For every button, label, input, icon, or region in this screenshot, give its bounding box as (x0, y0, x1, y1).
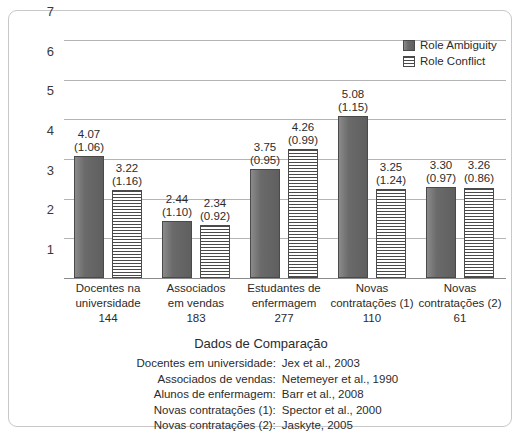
category-sample-size: 61 (405, 311, 515, 326)
chart-legend: Role Ambiguity Role Conflict (403, 37, 497, 69)
category-line-1: Associados (167, 282, 226, 294)
bar-group: 3.75 (0.95) 4.26 (0.99) (240, 40, 328, 278)
bar-ambiguity[interactable] (162, 221, 192, 278)
y-axis-tick: 6 (47, 43, 54, 58)
bar-sd: (0.95) (237, 154, 293, 167)
bar-conflict[interactable] (200, 225, 230, 278)
reference-row: Novas contratações (2): Jaskyte, 2005 (124, 418, 398, 434)
bar-value-label: 3.25 (1.24) (363, 161, 419, 187)
bar-conflict[interactable] (288, 149, 318, 278)
bar-conflict[interactable] (376, 189, 406, 278)
bar-group: 5.08 (1.15) 3.25 (1.24) (328, 40, 416, 278)
category-line-1: Docentes na (76, 282, 141, 294)
bar-group: 4.07 (1.06) 3.22 (1.16) (64, 40, 152, 278)
y-axis-tick: 4 (47, 123, 54, 138)
bar-group: 3.30 (0.97) 3.26 (0.86) (416, 40, 504, 278)
bar-value: 3.26 (451, 159, 507, 172)
y-axis: 7 6 5 4 3 2 1 (9, 11, 64, 278)
y-axis-tick: 3 (47, 162, 54, 177)
reference-label: Associados de vendas: (124, 372, 282, 388)
category-line-2: universidade (75, 297, 140, 309)
bar-value: 4.07 (61, 128, 117, 141)
y-axis-tick: 2 (47, 202, 54, 217)
reference-citation: Jaskyte, 2005 (282, 418, 353, 434)
category-line-2: enfermagem (252, 297, 317, 309)
legend-swatch-icon (403, 56, 415, 67)
legend-item-role-conflict[interactable]: Role Conflict (403, 53, 497, 69)
category-line-1: Novas (444, 282, 477, 294)
bar-sd: (0.86) (451, 172, 507, 185)
category-line-1: Novas (356, 282, 389, 294)
axis-baseline (64, 278, 506, 279)
bar-sd: (1.24) (363, 174, 419, 187)
bar-sd: (0.99) (275, 134, 331, 147)
bar-conflict[interactable] (464, 188, 494, 278)
y-axis-tick: 7 (47, 4, 54, 19)
bar-sd: (0.92) (187, 210, 243, 223)
reference-label: Alunos de enfermagem: (124, 387, 282, 403)
bar-value: 2.34 (187, 197, 243, 210)
reference-label: Novas contratações (1): (124, 403, 282, 419)
category-line-2: contratações (2) (418, 297, 501, 309)
legend-swatch-icon (403, 40, 415, 51)
bar-value-label: 4.26 (0.99) (275, 121, 331, 147)
legend-item-role-ambiguity[interactable]: Role Ambiguity (403, 37, 497, 53)
bar-conflict[interactable] (112, 190, 142, 278)
y-axis-tick: 5 (47, 83, 54, 98)
reference-list: Docentes em universidade: Jex et al., 20… (124, 356, 398, 434)
category-line-2: contratações (1) (330, 297, 413, 309)
reference-row: Novas contratações (1): Spector et al., … (124, 403, 398, 419)
reference-citation: Spector et al., 2000 (282, 403, 382, 419)
bar-series-container: 4.07 (1.06) 3.22 (1.16) 2.44 (1.10) 2.34… (64, 40, 506, 278)
bar-value-label: 4.07 (1.06) (61, 128, 117, 154)
reference-citation: Jex et al., 2003 (282, 356, 360, 372)
category-line-1: Estudantes de (247, 282, 321, 294)
x-axis-categories: Docentes na universidade 144 Associados … (64, 281, 506, 331)
reference-label: Docentes em universidade: (124, 356, 282, 372)
bar-value-label: 2.34 (0.92) (187, 197, 243, 223)
bar-value: 3.22 (99, 162, 155, 175)
footer-block: Dados de Comparação Docentes em universi… (17, 336, 505, 434)
bar-value-label: 5.08 (1.15) (325, 88, 381, 114)
bar-ambiguity[interactable] (338, 116, 368, 278)
reference-row: Docentes em universidade: Jex et al., 20… (124, 356, 398, 372)
bar-sd: (1.16) (99, 175, 155, 188)
reference-row: Alunos de enfermagem: Barr et al., 2008 (124, 387, 398, 403)
legend-label: Role Conflict (420, 53, 485, 69)
bar-value-label: 3.22 (1.16) (99, 162, 155, 188)
bar-group: 2.44 (1.10) 2.34 (0.92) (152, 40, 240, 278)
bar-value: 4.26 (275, 121, 331, 134)
chart-card: 7 6 5 4 3 2 1 4.07 (1.06) 3.22 (1.16) (8, 10, 512, 427)
reference-citation: Netemeyer et al., 1990 (282, 372, 398, 388)
bar-ambiguity[interactable] (426, 187, 456, 278)
bar-sd: (1.06) (61, 141, 117, 154)
category-line-2: em vendas (168, 297, 224, 309)
x-axis-category: Novas contratações (2) 61 (405, 281, 515, 326)
bar-value-label: 3.26 (0.86) (451, 159, 507, 185)
reference-label: Novas contratações (2): (124, 418, 282, 434)
legend-label: Role Ambiguity (420, 37, 497, 53)
bar-sd: (1.15) (325, 101, 381, 114)
bar-ambiguity[interactable] (250, 169, 280, 278)
bar-value: 3.25 (363, 161, 419, 174)
reference-citation: Barr et al., 2008 (282, 387, 364, 403)
footer-title: Dados de Comparação (17, 336, 505, 351)
reference-row: Associados de vendas: Netemeyer et al., … (124, 372, 398, 388)
bar-value: 5.08 (325, 88, 381, 101)
y-axis-tick: 1 (47, 242, 54, 257)
